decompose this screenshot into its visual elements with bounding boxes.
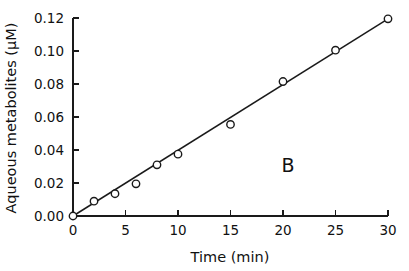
x-tick-label: 15	[222, 222, 239, 238]
x-tick-label: 5	[121, 222, 130, 238]
data-point	[111, 190, 118, 197]
y-tick-label: 0.10	[34, 43, 64, 59]
data-point	[69, 212, 76, 219]
y-tick-label: 0.08	[34, 76, 64, 92]
data-point	[174, 150, 181, 157]
y-tick-label: 0.04	[34, 142, 64, 158]
data-point	[279, 78, 286, 85]
figure-panel: 0510152025300.000.020.040.060.080.100.12…	[0, 0, 409, 271]
chart-canvas: 0510152025300.000.020.040.060.080.100.12…	[0, 0, 409, 271]
data-point	[132, 180, 139, 187]
x-tick-label: 30	[379, 222, 396, 238]
x-tick-label: 20	[274, 222, 291, 238]
x-tick-label: 10	[169, 222, 186, 238]
data-point	[153, 161, 160, 168]
y-tick-label: 0.02	[34, 175, 64, 191]
y-tick-label: 0.00	[34, 208, 64, 224]
data-point	[90, 197, 97, 204]
panel-label: B	[281, 154, 294, 176]
data-series	[69, 15, 391, 220]
tick-labels: 0510152025300.000.020.040.060.080.100.12	[34, 10, 397, 238]
y-axis-title: Aqueous metabolites (µM)	[3, 23, 19, 214]
y-tick-label: 0.06	[34, 109, 64, 125]
data-point	[384, 15, 391, 22]
fit-line	[73, 19, 388, 216]
x-axis-title: Time (min)	[190, 249, 270, 265]
data-point	[227, 121, 234, 128]
x-tick-label: 25	[327, 222, 344, 238]
x-tick-label: 0	[69, 222, 78, 238]
data-point	[332, 46, 339, 53]
y-tick-label: 0.12	[34, 10, 64, 26]
